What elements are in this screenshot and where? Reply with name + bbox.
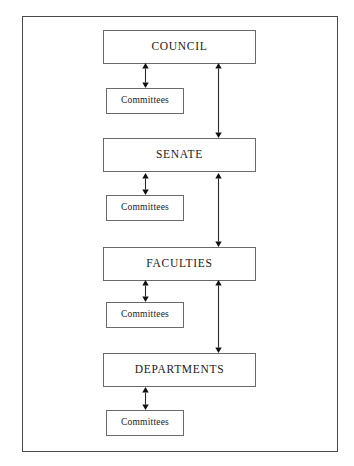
connector-arrow-faculties-departments bbox=[213, 280, 224, 353]
connector-arrow-departments-committees bbox=[140, 387, 151, 410]
node-box-committees-3: Committees bbox=[106, 302, 184, 328]
node-label-committees-2: Committees bbox=[121, 203, 169, 213]
connector-arrow-council-committees bbox=[140, 63, 151, 88]
node-box-committees-4: Committees bbox=[106, 410, 184, 436]
node-box-faculties: FACULTIES bbox=[103, 247, 256, 281]
node-label-committees-1: Committees bbox=[121, 96, 169, 106]
node-label-committees-4: Committees bbox=[121, 418, 169, 428]
node-label-council: COUNCIL bbox=[151, 41, 207, 53]
node-box-senate: SENATE bbox=[103, 138, 256, 172]
node-box-council: COUNCIL bbox=[103, 30, 256, 64]
node-box-committees-2: Committees bbox=[106, 195, 184, 221]
node-box-committees-1: Committees bbox=[106, 88, 184, 114]
connector-arrow-council-senate bbox=[213, 63, 224, 138]
node-label-departments: DEPARTMENTS bbox=[135, 364, 225, 376]
node-label-faculties: FACULTIES bbox=[146, 258, 212, 270]
organization-chart-diagram: COUNCILCommitteesSENATECommitteesFACULTI… bbox=[0, 0, 354, 466]
connector-arrow-senate-faculties bbox=[213, 173, 224, 247]
node-label-senate: SENATE bbox=[156, 149, 203, 161]
node-label-committees-3: Committees bbox=[121, 310, 169, 320]
node-box-departments: DEPARTMENTS bbox=[103, 353, 256, 387]
connector-arrow-senate-committees bbox=[140, 173, 151, 195]
connector-arrow-faculties-committees bbox=[140, 280, 151, 302]
